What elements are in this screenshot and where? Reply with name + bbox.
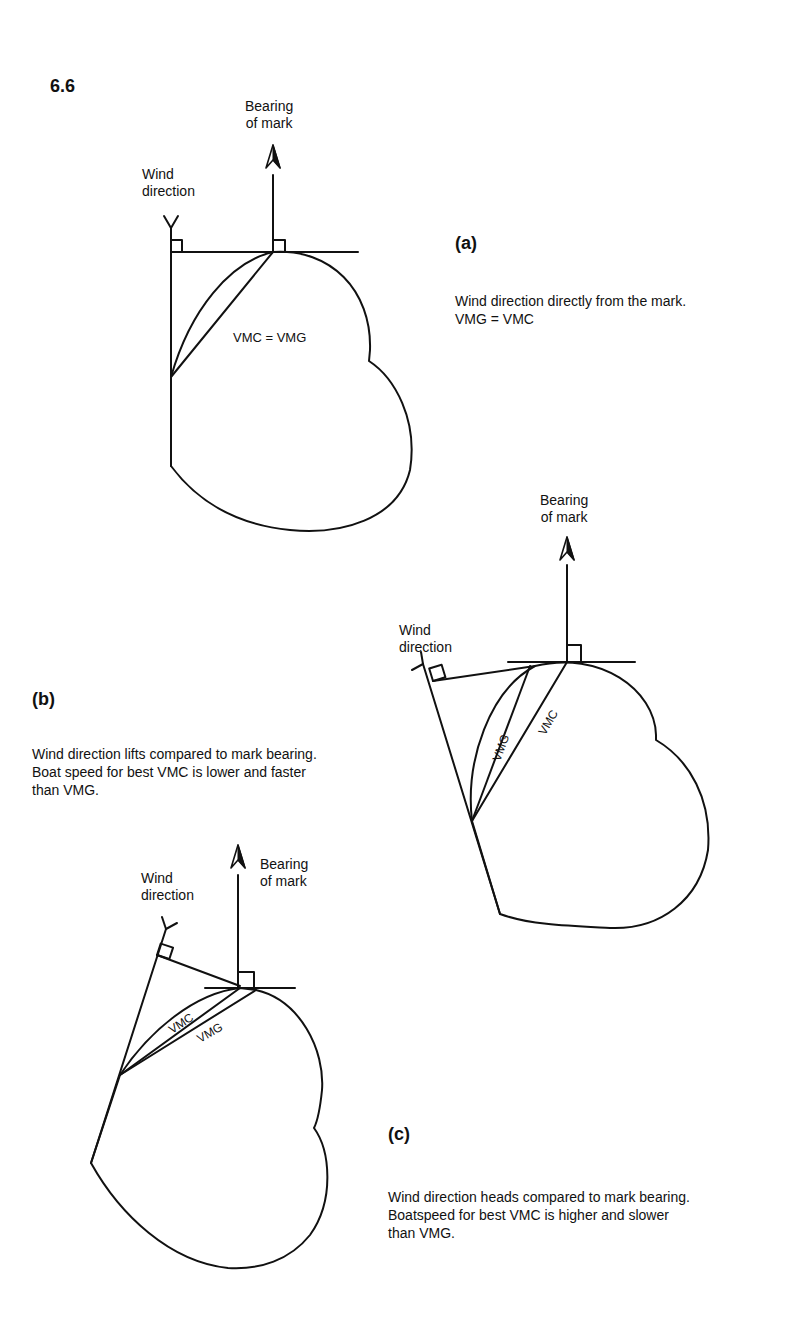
diagram-canvas: VMG VMC VMC VMG: [0, 0, 787, 1319]
panel-b-diagram: VMG VMC: [412, 537, 708, 928]
panel-a-diagram: [164, 145, 412, 531]
right-angle-marker: [567, 645, 581, 662]
north-arrow-icon: [560, 537, 574, 662]
panel-c-vmc-label: VMC: [166, 1010, 196, 1036]
north-arrow-icon: [231, 845, 245, 988]
panel-b-vmc-label: VMC: [535, 707, 561, 737]
panel-c-vmg-label: VMG: [195, 1020, 226, 1046]
north-arrow-icon: [266, 145, 280, 252]
right-angle-marker: [273, 240, 285, 252]
polar-curve: [471, 662, 709, 928]
panel-c-diagram: VMC VMG: [91, 845, 327, 1268]
right-angle-marker: [171, 240, 182, 252]
polar-curve: [171, 252, 412, 531]
